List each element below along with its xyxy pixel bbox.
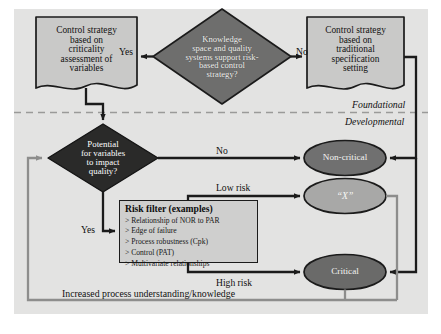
risk-filter-item: Multivariate relationships <box>125 259 257 270</box>
node-non-critical[interactable] <box>304 141 386 176</box>
node-control-strategy-traditional[interactable] <box>307 17 404 89</box>
node-critical[interactable] <box>304 255 386 290</box>
risk-filter-item: Relationship of NOR to PAR <box>125 216 257 227</box>
flowchart-vector-layer <box>0 0 441 334</box>
node-x[interactable] <box>304 179 386 214</box>
node-potential-decision[interactable] <box>48 124 158 192</box>
risk-filter-list: Relationship of NOR to PAR Edge of failu… <box>125 216 257 270</box>
risk-filter-item: Process robustness (Cpk) <box>125 237 257 248</box>
node-knowledge-space-decision[interactable] <box>153 9 291 104</box>
edge-traditional-to-critical <box>390 158 416 272</box>
risk-filter-item: Edge of failure <box>125 226 257 237</box>
flowchart-figure: Control strategy based on criticality as… <box>0 0 441 334</box>
risk-filter-item: Control (PAT) <box>125 248 257 259</box>
risk-filter-title: Risk filter (examples) <box>125 204 257 215</box>
node-control-strategy-criticality[interactable] <box>36 17 137 89</box>
edge-potential-to-risk-filter <box>103 192 115 231</box>
node-risk-filter[interactable]: Risk filter (examples) Relationship of N… <box>119 200 258 263</box>
feedback-edge-from-x <box>386 196 397 300</box>
edge-criticality-to-potential <box>86 88 103 120</box>
